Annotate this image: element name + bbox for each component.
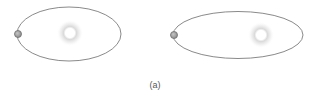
right-orbit-panel [171,12,304,59]
right-planet-icon [171,32,178,39]
right-orbit-path [173,12,303,59]
left-sun-glow-icon [57,20,83,46]
left-orbit-panel [15,7,122,61]
right-sun-glow-icon [248,22,274,48]
figure-caption: (a) [0,80,310,90]
left-planet-icon [15,31,22,38]
